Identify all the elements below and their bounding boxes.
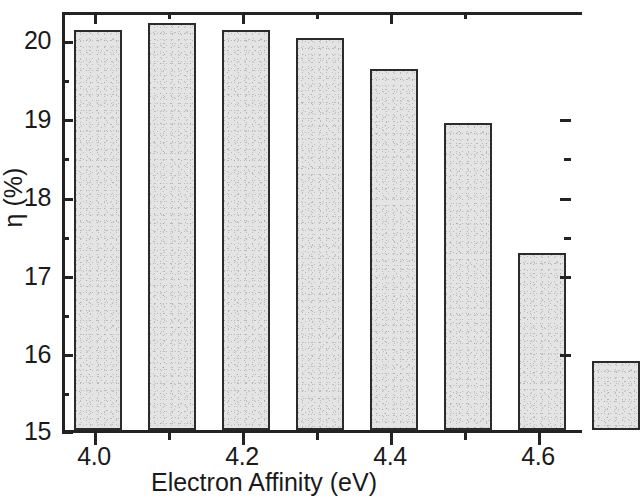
x-tick-top-minor-4.5 xyxy=(464,12,467,19)
y-tick-15 xyxy=(62,431,73,434)
x-axis-title: Electron Affinity (eV) xyxy=(0,470,528,495)
x-tick-minor-4.3 xyxy=(316,433,319,440)
bar-4.6 xyxy=(518,253,566,430)
y-tick-16 xyxy=(62,354,73,357)
y-tick-label-16: 16 xyxy=(5,342,51,367)
x-tick-top-4.2 xyxy=(242,12,245,24)
x-tick-top-minor-4.1 xyxy=(168,12,171,19)
x-tick-label-4.2: 4.2 xyxy=(202,444,282,469)
bar-4.7 xyxy=(592,361,640,430)
y-tick-right-19 xyxy=(560,119,571,122)
x-tick-top-4.0 xyxy=(94,12,97,24)
x-tick-top-4.4 xyxy=(390,12,393,24)
plot-area xyxy=(62,12,582,433)
x-tick-label-4.6: 4.6 xyxy=(498,444,578,469)
bar-4.2 xyxy=(222,30,270,430)
y-tick-label-15: 15 xyxy=(5,419,51,444)
bar-4.1 xyxy=(148,23,196,430)
bar-4.4 xyxy=(370,69,418,430)
y-tick-minor-18.5 xyxy=(62,158,69,161)
y-tick-label-20: 20 xyxy=(5,28,51,53)
y-tick-right-minor-17.5 xyxy=(564,237,571,240)
y-tick-19 xyxy=(62,119,73,122)
y-tick-minor-15.5 xyxy=(62,393,69,396)
y-tick-17 xyxy=(62,276,73,279)
y-tick-20 xyxy=(62,41,73,44)
bar-4.0 xyxy=(74,30,122,430)
x-tick-label-4.4: 4.4 xyxy=(350,444,430,469)
y-tick-18 xyxy=(62,198,73,201)
bar-4.3 xyxy=(296,38,344,430)
y-tick-right-17 xyxy=(560,276,571,279)
y-tick-minor-16.5 xyxy=(62,315,69,318)
x-tick-minor-4.5 xyxy=(464,433,467,440)
x-tick-top-minor-4.3 xyxy=(316,12,319,19)
y-tick-right-16 xyxy=(560,354,571,357)
y-tick-right-minor-18.5 xyxy=(564,158,571,161)
y-axis-title: η (%) xyxy=(1,113,26,283)
y-tick-minor-17.5 xyxy=(62,237,69,240)
y-tick-minor-19.5 xyxy=(62,80,69,83)
x-tick-minor-4.1 xyxy=(168,433,171,440)
bar-4.5 xyxy=(444,123,492,430)
y-tick-right-18 xyxy=(560,198,571,201)
x-tick-label-4.0: 4.0 xyxy=(54,444,134,469)
